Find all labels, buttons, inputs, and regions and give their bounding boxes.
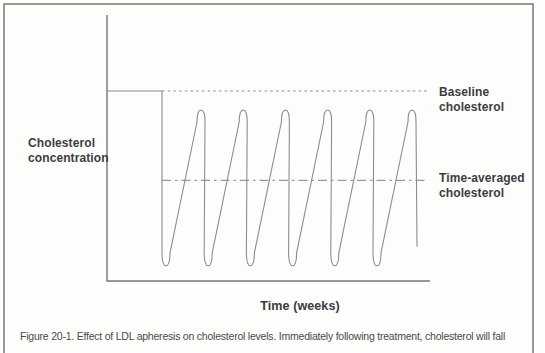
figure-caption: Figure 20-1. Effect of LDL apheresis on …	[20, 329, 540, 343]
cholesterol-curve	[107, 91, 417, 266]
y-axis-label: Cholesterol concentration	[28, 136, 128, 166]
x-axis-label: Time (weeks)	[250, 299, 350, 314]
axes	[107, 15, 430, 281]
baseline-cholesterol-label: Baseline cholesterol	[439, 85, 539, 115]
time-averaged-cholesterol-label: Time-averaged cholesterol	[439, 171, 539, 201]
